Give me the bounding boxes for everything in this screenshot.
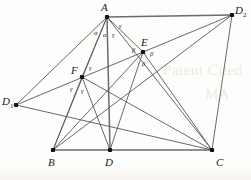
angle-gamma-F-low: γ: [81, 88, 84, 95]
edge-D1-C: [16, 105, 212, 150]
edge-D1-E: [16, 15, 232, 105]
vertex-dot-C: [210, 148, 214, 152]
edge-layer: [16, 15, 232, 150]
vertex-label-C: C: [216, 157, 223, 168]
vertex-label-E: E: [141, 37, 148, 48]
angle-alpha-left: α: [94, 30, 97, 37]
geometry-canvas: [0, 0, 251, 180]
geometry-figure: Patent CitedMA AD2EFD1BDC ααγγβββγγγ: [0, 0, 251, 180]
angle-gamma-F-up: γ: [89, 65, 92, 72]
angle-beta-E-low: β: [142, 61, 145, 68]
edge-A-D2: [107, 15, 232, 17]
vertex-label-D2: D2: [235, 5, 246, 19]
vertex-dot-B: [51, 148, 55, 152]
vertex-label-F: F: [71, 65, 78, 76]
angle-beta-E-left: β: [132, 47, 135, 54]
angle-beta-E-right: β: [150, 51, 153, 58]
edge-E-B: [53, 52, 143, 150]
angle-gamma-apex: γ: [112, 32, 115, 39]
angle-alpha-right: α: [103, 32, 106, 39]
edge-D2-C: [212, 15, 232, 150]
vertex-label-D: D: [105, 157, 113, 168]
vertex-dot-F: [80, 75, 84, 79]
edge-A-F: [82, 17, 107, 77]
vertex-label-subscript-D1: 1: [10, 102, 14, 110]
vertex-label-D1: D1: [2, 96, 13, 110]
angle-gamma-apex2: γ: [119, 23, 122, 30]
angle-gamma-F-left: γ: [70, 86, 73, 93]
edge-A-C: [107, 17, 212, 150]
vertex-label-B: B: [48, 157, 55, 168]
edge-E-D: [110, 52, 143, 150]
vertex-dot-D: [108, 148, 112, 152]
edge-E-C: [143, 52, 212, 150]
vertex-label-A: A: [101, 2, 108, 13]
edge-A-D: [107, 17, 110, 150]
vertex-dot-E: [141, 50, 145, 54]
vertex-label-subscript-D2: 2: [243, 11, 247, 19]
vertex-dot-D2: [230, 13, 234, 17]
vertex-dot-A: [105, 15, 109, 19]
vertex-dot-D1: [14, 103, 18, 107]
